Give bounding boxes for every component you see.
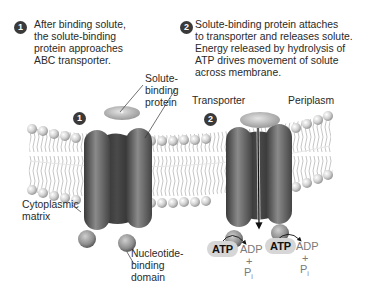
- atp-bubble-1: ATP: [207, 241, 238, 257]
- step-2-badge: 2: [180, 21, 193, 34]
- label-line: domain: [131, 272, 184, 284]
- step-1-line: After binding solute,: [34, 19, 126, 31]
- step-1-line: the solute-binding: [34, 31, 126, 43]
- step-2-line: across membrane.: [195, 67, 353, 79]
- label-periplasm: Periplasm: [288, 95, 334, 107]
- step-2-line: to transporter and releases solute.: [195, 31, 353, 43]
- step-1-line: ABC transporter.: [34, 55, 126, 67]
- transporter-2: [225, 112, 292, 248]
- label-nucleotide-binding-domain: Nucleotide- binding domain: [131, 248, 184, 284]
- step-2-line: ATP drives movement of solute: [195, 55, 353, 67]
- step-1-line: protein approaches: [34, 43, 126, 55]
- label-line: binding: [145, 85, 179, 97]
- label-line: matrix: [22, 211, 79, 223]
- label-line: binding: [131, 260, 184, 272]
- transporter-1: [78, 128, 152, 252]
- step-1-badge: 1: [14, 21, 27, 34]
- step-2-line: Energy released by hydrolysis of: [195, 43, 353, 55]
- atp-bubble-2: ATP: [265, 238, 296, 254]
- phosphate-subscript: i: [251, 273, 253, 280]
- step-1-description: After binding solute, the solute-binding…: [34, 19, 126, 67]
- phosphate-label-2: Pi: [300, 263, 309, 277]
- step-2-description: Solute-binding protein attaches to trans…: [195, 19, 353, 79]
- label-line: protein: [145, 97, 179, 109]
- label-line: Nucleotide-: [131, 248, 184, 260]
- label-transporter: Transporter: [192, 95, 245, 107]
- label-line: Cytoplasmic: [22, 199, 79, 211]
- transporter-2-marker: 2: [204, 113, 217, 126]
- adp-label-1: ADP: [240, 243, 263, 255]
- adp-label-2: ADP: [296, 240, 319, 252]
- transporter-1-marker: 1: [73, 112, 86, 125]
- phosphate-subscript: i: [307, 270, 309, 277]
- label-solute-binding-protein: Solute- binding protein: [145, 73, 179, 109]
- label-cytoplasmic-matrix: Cytoplasmic matrix: [22, 199, 79, 223]
- phosphate-label-1: Pi: [244, 266, 253, 280]
- label-line: Solute-: [145, 73, 179, 85]
- step-2-line: Solute-binding protein attaches: [195, 19, 353, 31]
